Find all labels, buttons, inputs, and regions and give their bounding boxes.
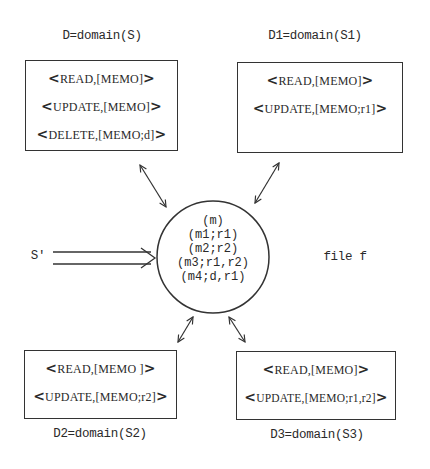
arrow-d-file [140, 165, 166, 207]
op-args: [MEMO] [103, 100, 150, 114]
op-args: [MEMO;r1,r2] [305, 392, 376, 404]
file-label: file f [323, 250, 366, 264]
close-angle-icon: > [358, 361, 370, 377]
open-angle-icon: < [244, 389, 256, 405]
file-record: (m) [157, 214, 269, 228]
op-args: [MEMO;r1] [315, 102, 375, 116]
open-angle-icon: < [37, 126, 49, 142]
capability-entry: <UPDATE,[MEMO;r1]> [238, 100, 402, 117]
file-record: (m4;d,r1) [157, 270, 269, 284]
domain-box-d: <READ,[MEMO]> <UPDATE,[MEMO]> <DELETE,[M… [25, 60, 178, 151]
op-name: UPDATE [256, 392, 301, 404]
open-angle-icon: < [33, 388, 45, 404]
close-angle-icon: > [376, 389, 388, 405]
op-name: READ [57, 362, 90, 376]
close-angle-icon: > [375, 100, 387, 116]
op-args: [MEMO] [97, 72, 144, 86]
arrow-d3-file [229, 317, 245, 342]
domain-label-d2: D2=domain(S2) [53, 427, 147, 441]
open-angle-icon: < [253, 100, 265, 116]
op-name: READ [274, 363, 307, 377]
close-angle-icon: > [143, 70, 155, 86]
domain-label-d1: D1=domain(S1) [268, 29, 362, 43]
subject-label: S' [31, 249, 45, 263]
capability-entry: <DELETE,[MEMO;d]> [26, 126, 177, 143]
capability-entry: <UPDATE,[MEMO;r2]> [25, 388, 176, 405]
open-angle-icon: < [262, 361, 274, 377]
op-name: READ [60, 72, 93, 86]
op-name: UPDATE [45, 390, 92, 404]
capability-entry: <READ,[MEMO ]> [25, 360, 176, 377]
file-record: (m3;r1,r2) [157, 256, 269, 270]
capability-entry: <UPDATE,[MEMO]> [26, 98, 177, 115]
open-angle-icon: < [41, 98, 53, 114]
op-name: READ [278, 74, 311, 88]
domain-label-d: D=domain(S) [62, 29, 141, 43]
arrow-d2-file [178, 317, 193, 342]
close-angle-icon: > [144, 360, 156, 376]
close-angle-icon: > [150, 98, 162, 114]
domain-box-d1: <READ,[MEMO]> <UPDATE,[MEMO;r1]> [237, 62, 403, 153]
double-arrow-icon [53, 248, 155, 268]
file-record: (m1;r1) [157, 228, 269, 242]
op-name: UPDATE [265, 102, 312, 116]
op-name: DELETE [49, 128, 96, 142]
op-args: [MEMO] [315, 74, 362, 88]
capability-entry: <UPDATE,[MEMO;r1,r2]> [237, 389, 395, 405]
domain-box-d2: <READ,[MEMO ]> <UPDATE,[MEMO;r2]> [24, 350, 177, 419]
capability-entry: <READ,[MEMO]> [26, 70, 177, 87]
domain-label-d3: D3=domain(S3) [270, 428, 364, 442]
op-args: [MEMO;d] [98, 128, 154, 142]
close-angle-icon: > [362, 72, 374, 88]
open-angle-icon: < [266, 72, 278, 88]
op-args: [MEMO ] [94, 362, 144, 376]
file-records: (m) (m1;r1) (m2;r2) (m3;r1,r2) (m4;d,r1) [157, 214, 269, 284]
open-angle-icon: < [45, 360, 57, 376]
op-args: [MEMO] [311, 363, 358, 377]
domain-box-d3: <READ,[MEMO]> <UPDATE,[MEMO;r1,r2]> [236, 351, 396, 420]
open-angle-icon: < [48, 70, 60, 86]
capability-entry: <READ,[MEMO]> [238, 72, 402, 89]
arrow-d1-file [255, 163, 279, 203]
capability-entry: <READ,[MEMO]> [237, 361, 395, 378]
op-name: UPDATE [53, 100, 100, 114]
close-angle-icon: > [155, 126, 167, 142]
op-args: [MEMO;r2] [95, 390, 155, 404]
file-record: (m2;r2) [157, 242, 269, 256]
close-angle-icon: > [156, 388, 168, 404]
